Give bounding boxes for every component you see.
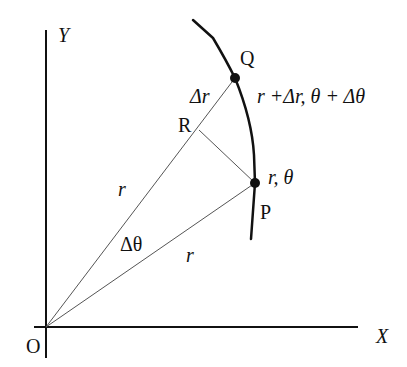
- radius-line-oq: [46, 78, 235, 327]
- point-r-label: R: [178, 114, 192, 136]
- point-q-label: Q: [240, 47, 255, 69]
- point-p-label: P: [260, 201, 271, 223]
- polar-diagram: Y X O Q P R r +Δr, θ + Δθ r, θ Δr r r Δθ: [0, 0, 407, 367]
- point-p-coordinates: r, θ: [268, 166, 294, 188]
- radius-line-op: [46, 183, 255, 327]
- delta-r-label: Δr: [189, 85, 210, 107]
- perpendicular-pr: [199, 130, 255, 183]
- radius-or-label: r: [118, 178, 126, 200]
- y-axis-label: Y: [58, 24, 71, 46]
- origin-label: O: [26, 335, 40, 357]
- point-p-marker: [250, 178, 260, 188]
- point-q-coordinates: r +Δr, θ + Δθ: [257, 85, 365, 107]
- x-axis-label: X: [375, 325, 389, 347]
- point-q-marker: [230, 73, 240, 83]
- delta-theta-label: Δθ: [120, 233, 142, 255]
- radius-op-label: r: [186, 244, 194, 266]
